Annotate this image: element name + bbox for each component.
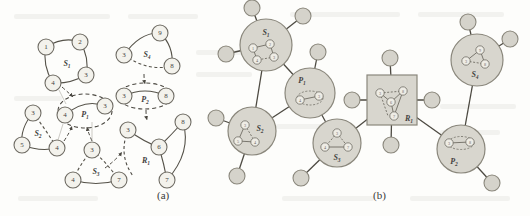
leaf-node: [460, 14, 476, 30]
panel-b-caption: (b): [373, 189, 386, 201]
node-label: 4: [51, 79, 55, 87]
inner-node-label: 7: [347, 145, 349, 150]
leaf-node: [382, 50, 398, 66]
inner-node-label: 3: [336, 131, 338, 136]
cluster-S4: 3 9 8 S4: [451, 34, 503, 86]
inner-node-label: 6: [390, 100, 392, 105]
inner-node-label: 3: [244, 123, 246, 128]
cluster-disc: [228, 107, 276, 155]
node-label: 3: [31, 109, 35, 117]
node-label: 7: [165, 176, 169, 184]
node-label: 3: [103, 102, 107, 110]
inner-node-label: 9: [479, 48, 481, 53]
node-label: 2: [78, 38, 82, 46]
node-label: 3: [84, 71, 88, 79]
node-label: 8: [164, 92, 168, 100]
cluster-P1: 4 3 P1: [285, 68, 335, 118]
inner-node-label: 3: [379, 91, 381, 96]
node-label: 3: [122, 51, 126, 59]
inner-node-label: 3: [465, 59, 467, 64]
leaf-node: [424, 92, 440, 108]
node-label: 3: [126, 126, 130, 134]
leaf-node: [502, 31, 518, 47]
node-label: 8: [181, 118, 185, 126]
cluster-S1: 1 2 3 4 S1: [240, 19, 292, 71]
inner-node-label: 5: [237, 139, 239, 144]
inner-node-label: 8: [484, 62, 486, 67]
leaf-node: [218, 46, 234, 62]
node-label: 3: [90, 146, 94, 154]
leaf-node: [244, 0, 260, 16]
inner-node-label: 3: [448, 141, 450, 146]
node-label: 7: [117, 176, 121, 184]
cluster-disc: [437, 125, 485, 173]
inner-node-label: 8: [469, 140, 471, 145]
figure-canvas: 1 2 3 4 S1 3 5 4 S2: [0, 0, 530, 216]
inner-node-label: 8: [402, 89, 404, 94]
leaf-node: [344, 92, 360, 108]
figure-root: 1 2 3 4 S1 3 5 4 S2: [0, 0, 530, 216]
cluster-S3: 3 4 7 S3: [313, 119, 361, 167]
node-label: 8: [170, 62, 174, 70]
leaf-node: [383, 137, 399, 153]
node-label: 3: [122, 92, 126, 100]
leaf-node: [484, 175, 500, 191]
leaf-node: [229, 168, 245, 184]
inner-node-label: 1: [252, 46, 254, 51]
node-label: 9: [158, 29, 162, 37]
leaf-node: [295, 8, 311, 24]
inner-node-label: 2: [269, 42, 271, 47]
inner-node-label: 7: [393, 114, 395, 119]
leaf-node: [293, 170, 309, 186]
inner-node-label: 3: [318, 94, 320, 99]
leaf-node: [208, 110, 224, 126]
inner-node-label: 3: [273, 55, 275, 60]
node-label: 6: [157, 143, 161, 151]
cluster-disc: [285, 68, 335, 118]
panel-a-caption: (a): [157, 189, 169, 201]
node-label: 5: [20, 141, 24, 149]
cluster-R1: 3 8 6 7 R1: [367, 75, 417, 125]
node-label: 1: [44, 43, 48, 51]
cluster-P2: 3 8 P2: [437, 125, 485, 173]
node-label: 4: [71, 176, 75, 184]
node-label: 4: [63, 111, 67, 119]
leaf-node: [310, 44, 326, 60]
node-label: 4: [55, 144, 59, 152]
cluster-S2: 3 5 4 S2: [228, 107, 276, 155]
